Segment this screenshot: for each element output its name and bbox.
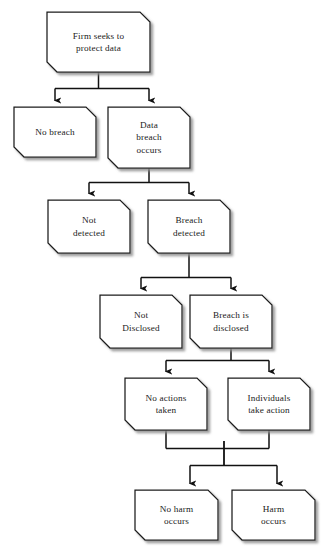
node-data-breach-occurs[interactable] xyxy=(108,107,190,168)
node-breach-is-disclosed[interactable] xyxy=(190,295,272,348)
edge-protect-to-branches xyxy=(55,72,149,101)
node-breach-detected[interactable] xyxy=(148,200,230,253)
node-not-disclosed[interactable] xyxy=(100,295,182,348)
edge-responses-merge-to-harm xyxy=(166,430,277,484)
edge-breach-to-detection xyxy=(89,168,189,194)
node-individuals-take-action[interactable] xyxy=(228,378,310,430)
node-firm-seeks-to-protect-data[interactable] xyxy=(47,12,150,72)
node-harm-occurs[interactable] xyxy=(232,490,315,540)
node-not-detected[interactable] xyxy=(48,200,130,253)
node-no-actions-taken[interactable] xyxy=(125,378,207,430)
edge-disclosed-to-response xyxy=(166,348,269,372)
node-no-harm-occurs[interactable] xyxy=(135,490,218,540)
flowchart-canvas: Firm seeks to protect data No breach Dat… xyxy=(0,0,333,555)
flowchart-node-shapes xyxy=(14,12,315,540)
flowchart-graphics xyxy=(0,0,333,555)
node-no-breach[interactable] xyxy=(14,107,96,157)
edge-detected-to-disclosure xyxy=(141,253,231,289)
